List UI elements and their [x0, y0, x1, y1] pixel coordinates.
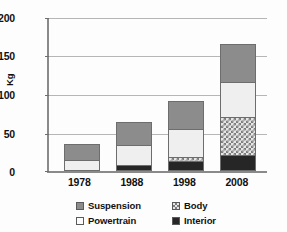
y-tick-label-200: 200	[0, 12, 15, 24]
bar-segment-interior[interactable]	[169, 161, 203, 170]
bar-segment-powertrain[interactable]	[169, 129, 203, 157]
y-tick-label-150: 150	[0, 50, 15, 62]
bar-column-1978[interactable]	[64, 18, 98, 171]
bar-column-2008[interactable]	[220, 18, 254, 171]
bar-segment-powertrain[interactable]	[117, 145, 151, 165]
bar-segment-interior[interactable]	[117, 165, 151, 170]
y-axis-title: Kg	[4, 73, 15, 86]
legend-swatch-interior-icon	[172, 217, 180, 225]
y-tick-label-0: 0	[0, 166, 15, 178]
y-tick-0	[45, 171, 49, 172]
bar-segment-powertrain[interactable]	[221, 82, 255, 117]
bar-segment-suspension[interactable]	[221, 45, 255, 82]
stacked-bar-chart: 200 150 100 50 0 Kg 1978198819982008 Sus…	[0, 0, 287, 232]
plot-area	[47, 18, 267, 173]
bar-column-1988[interactable]	[116, 18, 150, 171]
legend-item-body[interactable]: Body	[172, 200, 256, 211]
bar-stack[interactable]	[168, 101, 204, 171]
legend-swatch-body-icon	[172, 202, 180, 210]
bar-group	[49, 18, 267, 171]
legend-label: Suspension	[88, 200, 141, 211]
bar-stack[interactable]	[116, 122, 152, 171]
legend-label: Powertrain	[88, 215, 136, 226]
bar-column-1998[interactable]	[168, 18, 202, 171]
legend-label: Body	[184, 200, 207, 211]
chart-legend: SuspensionBodyPowertrainInterior	[76, 198, 266, 228]
x-tick-label-1998: 1998	[167, 176, 201, 188]
legend-item-interior[interactable]: Interior	[172, 215, 256, 226]
x-tick-label-1978: 1978	[62, 176, 96, 188]
bar-stack[interactable]	[64, 144, 100, 171]
bar-segment-suspension[interactable]	[169, 102, 203, 129]
bar-segment-suspension[interactable]	[117, 123, 151, 145]
x-tick-label-1988: 1988	[115, 176, 149, 188]
legend-label: Interior	[184, 215, 216, 226]
y-tick-label-100: 100	[0, 89, 15, 101]
bar-segment-interior[interactable]	[221, 155, 255, 170]
bar-segment-suspension[interactable]	[65, 145, 99, 160]
bar-segment-body[interactable]	[221, 117, 255, 155]
bar-stack[interactable]	[220, 44, 256, 171]
legend-item-suspension[interactable]: Suspension	[76, 200, 160, 211]
x-tick-label-2008: 2008	[220, 176, 254, 188]
legend-swatch-powertrain-icon	[76, 217, 84, 225]
legend-swatch-suspension-icon	[76, 202, 84, 210]
legend-item-powertrain[interactable]: Powertrain	[76, 215, 160, 226]
bar-segment-powertrain[interactable]	[65, 160, 99, 170]
x-axis-labels: 1978198819982008	[47, 176, 267, 194]
y-tick-label-50: 50	[0, 128, 15, 140]
